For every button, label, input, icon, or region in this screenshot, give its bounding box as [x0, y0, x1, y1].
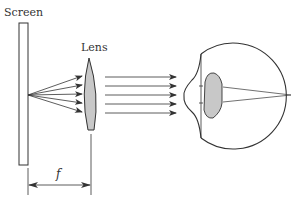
eye-lens — [204, 73, 222, 118]
lens-label: Lens — [81, 41, 108, 54]
screen — [19, 23, 28, 165]
diverging-rays — [28, 76, 82, 112]
screen-label: Screen — [4, 6, 43, 19]
optics-diagram: Screen Lens f — [0, 0, 303, 206]
lens — [84, 58, 96, 130]
eye — [184, 43, 286, 149]
retina-focus-rays — [223, 87, 291, 102]
parallel-rays — [105, 77, 176, 113]
focal-length-label: f — [55, 167, 63, 181]
